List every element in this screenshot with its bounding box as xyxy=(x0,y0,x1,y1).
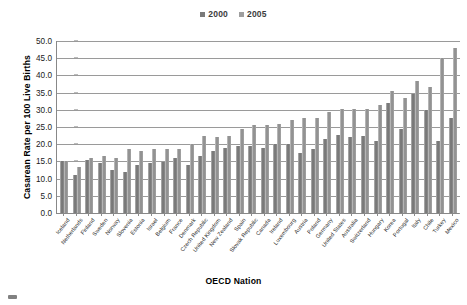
bar-group xyxy=(409,41,422,213)
bar-group xyxy=(146,41,159,213)
bar-2005 xyxy=(227,136,231,213)
x-axis-tick-mark xyxy=(57,213,70,216)
bar-2005 xyxy=(77,167,81,213)
y-axis-tick-label: 10.0 xyxy=(36,174,52,183)
bar-2005 xyxy=(315,118,319,213)
bar-group xyxy=(233,41,246,213)
bar-group xyxy=(421,41,434,213)
bar-2005 xyxy=(240,129,244,213)
x-axis-tick-mark xyxy=(182,213,195,216)
casarean-rate-bar-chart: 2000 2005 Casarean Rate per 100 Live Bir… xyxy=(0,0,467,305)
x-axis-tick-mark xyxy=(408,213,421,216)
legend-swatch-2000 xyxy=(200,12,205,17)
bar-2005 xyxy=(290,120,294,213)
x-axis-tick-mark xyxy=(120,213,133,216)
x-axis-tick-marks xyxy=(56,213,459,216)
x-axis-tick-mark xyxy=(157,213,170,216)
bar-group xyxy=(108,41,121,213)
x-axis-tick-mark xyxy=(145,213,158,216)
bar-group xyxy=(133,41,146,213)
y-axis-tick-label: 5.0 xyxy=(41,191,52,200)
y-axis-tick-label: 50.0 xyxy=(36,37,52,46)
bar-group xyxy=(446,41,459,213)
bar-group xyxy=(271,41,284,213)
bar-2005 xyxy=(190,144,194,213)
x-axis-tick-mark xyxy=(170,213,183,216)
x-axis-tick-mark xyxy=(207,213,220,216)
bar-2005 xyxy=(127,149,131,213)
bar-group xyxy=(284,41,297,213)
y-axis-tick-label: 40.0 xyxy=(36,71,52,80)
x-axis-tick-mark xyxy=(295,213,308,216)
x-axis-tick-mark xyxy=(358,213,371,216)
bar-2005 xyxy=(403,98,407,213)
x-axis-tick-mark xyxy=(195,213,208,216)
bar-2005 xyxy=(114,158,118,213)
bar-2005 xyxy=(165,149,169,213)
x-axis-tick-mark xyxy=(70,213,83,216)
bar-group xyxy=(58,41,71,213)
x-axis-tick-mark xyxy=(333,213,346,216)
x-axis-tick-mark xyxy=(270,213,283,216)
x-axis-tick-mark xyxy=(258,213,271,216)
bar-group xyxy=(334,41,347,213)
y-axis-tick-labels: 0.05.010.015.020.025.030.035.040.045.050… xyxy=(22,41,52,213)
bar-group xyxy=(171,41,184,213)
x-axis-tick-mark xyxy=(370,213,383,216)
y-axis-tick-label: 25.0 xyxy=(36,123,52,132)
bar-2005 xyxy=(277,124,281,213)
bar-2005 xyxy=(265,125,269,213)
x-axis-tick-mark xyxy=(220,213,233,216)
bar-2005 xyxy=(215,137,219,213)
page-artifact-mark xyxy=(8,295,17,299)
y-axis-tick-label: 0.0 xyxy=(41,209,52,218)
x-axis-tick-mark xyxy=(283,213,296,216)
bar-2005 xyxy=(252,125,256,213)
y-axis-tick-label: 20.0 xyxy=(36,140,52,149)
bar-group xyxy=(384,41,397,213)
bar-group xyxy=(121,41,134,213)
bar-2005 xyxy=(428,87,432,213)
bar-group xyxy=(396,41,409,213)
legend-label-2005: 2005 xyxy=(247,10,267,19)
bar-2005 xyxy=(202,136,206,213)
x-axis-tick-mark xyxy=(95,213,108,216)
x-axis-tick-mark xyxy=(245,213,258,216)
bar-2005 xyxy=(327,112,331,213)
bars-layer xyxy=(57,41,460,213)
bar-2005 xyxy=(139,151,143,213)
x-axis-tick-mark xyxy=(445,213,458,216)
bar-2005 xyxy=(378,105,382,213)
bar-group xyxy=(83,41,96,213)
y-axis-tick-label: 35.0 xyxy=(36,88,52,97)
x-axis-tick-mark xyxy=(82,213,95,216)
x-axis-tick-mark xyxy=(345,213,358,216)
chart-legend: 2000 2005 xyxy=(0,7,467,21)
x-axis-tick-mark xyxy=(420,213,433,216)
legend-label-2000: 2000 xyxy=(208,10,228,19)
bar-2005 xyxy=(177,149,181,213)
x-axis-tick-mark xyxy=(232,213,245,216)
x-axis-tick-mark xyxy=(383,213,396,216)
x-axis-tick-label: Italy xyxy=(411,217,422,229)
bar-group xyxy=(71,41,84,213)
bar-2005 xyxy=(152,149,156,213)
x-axis-tick-mark xyxy=(308,213,321,216)
bar-group xyxy=(309,41,322,213)
y-axis-tick-label: 15.0 xyxy=(36,157,52,166)
bar-group xyxy=(296,41,309,213)
bar-2005 xyxy=(102,156,106,213)
x-axis-tick-mark xyxy=(320,213,333,216)
legend-entry-2005: 2005 xyxy=(239,10,267,19)
bar-group xyxy=(346,41,359,213)
bar-group xyxy=(321,41,334,213)
x-axis-title: OECD Nation xyxy=(0,276,467,286)
y-axis-tick-label: 30.0 xyxy=(36,105,52,114)
x-axis-tick-labels: IcelandNetherlandsFinlandSwedenNorwaySlo… xyxy=(56,217,459,273)
legend-swatch-2005 xyxy=(239,12,244,17)
bar-group xyxy=(371,41,384,213)
bar-2005 xyxy=(440,58,444,213)
bar-2005 xyxy=(415,81,419,213)
bar-group xyxy=(183,41,196,213)
bar-group xyxy=(221,41,234,213)
